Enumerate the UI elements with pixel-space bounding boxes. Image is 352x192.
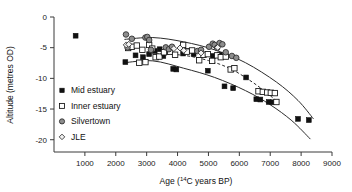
x-tick-label: 2000	[107, 159, 125, 168]
x-tick-label: 9000	[323, 159, 341, 168]
marker-silvertown	[123, 32, 129, 38]
chart-canvas: 0-5-10-15-20 100020003000400050006000700…	[0, 0, 352, 192]
marker-silvertown	[220, 42, 226, 48]
marker-inner-estuary	[60, 103, 65, 108]
marker-inner-estuary	[274, 99, 279, 104]
legend-item-silvertown[interactable]: Silvertown	[59, 116, 110, 126]
marker-silvertown	[233, 55, 239, 61]
x-tick-label: 5000	[200, 159, 218, 168]
legend-item-label: Silvertown	[71, 116, 110, 126]
marker-mid-estuary	[141, 55, 146, 60]
legend-item-label: Mid estuary	[71, 85, 116, 95]
x-axis-title-base: Age (	[160, 176, 180, 186]
lower-bound-curve	[124, 61, 310, 139]
y-axis-ticks: 0-5-10-15-20	[35, 13, 54, 145]
x-tick-label: 7000	[261, 159, 279, 168]
legend-item-mid-estuary[interactable]: Mid estuary	[60, 85, 116, 95]
legend-item-label: Inner estuary	[71, 101, 121, 111]
marker-inner-estuary	[189, 48, 194, 53]
marker-inner-estuary	[196, 58, 201, 63]
marker-silvertown	[223, 49, 229, 55]
marker-inner-estuary	[134, 43, 139, 48]
marker-mid-estuary	[296, 116, 301, 121]
marker-mid-estuary	[306, 118, 311, 123]
chart-legend: Mid estuaryInner estuarySilvertownJLE	[59, 85, 121, 142]
marker-mid-estuary	[133, 53, 138, 58]
marker-silvertown	[129, 36, 135, 42]
marker-mid-estuary	[60, 88, 64, 92]
x-axis-ticks: 100020003000400050006000700080009000	[76, 152, 341, 168]
x-tick-label: 8000	[292, 159, 310, 168]
y-tick-label: -10	[35, 74, 47, 83]
marker-mid-estuary	[244, 75, 249, 80]
scatter-chart-figure: 0-5-10-15-20 100020003000400050006000700…	[0, 0, 352, 192]
legend-item-inner-estuary[interactable]: Inner estuary	[60, 101, 122, 111]
x-axis-title-tail: C years BP)	[187, 176, 233, 186]
legend-item-jle[interactable]: JLE	[59, 132, 86, 142]
x-tick-label: 1000	[76, 159, 94, 168]
y-tick-label: -5	[40, 43, 48, 52]
marker-inner-estuary	[172, 52, 177, 57]
y-axis-title: Altitude (metres OD)	[5, 46, 15, 124]
marker-jle	[59, 134, 65, 140]
y-tick-label: -20	[35, 136, 47, 145]
marker-mid-estuary	[174, 67, 179, 72]
marker-mid-estuary	[222, 84, 227, 89]
marker-silvertown	[148, 47, 154, 53]
x-axis-title: Age (14C years BP)	[160, 176, 233, 186]
marker-inner-estuary	[143, 59, 148, 64]
marker-mid-estuary	[205, 68, 210, 73]
marker-inner-estuary	[209, 58, 214, 63]
legend-item-label: JLE	[71, 132, 86, 142]
marker-silvertown	[146, 37, 152, 43]
marker-inner-estuary	[272, 90, 277, 95]
marker-silvertown	[59, 119, 64, 124]
y-tick-label: -15	[35, 105, 47, 114]
marker-inner-estuary	[205, 51, 210, 56]
marker-mid-estuary	[258, 97, 263, 102]
marker-inner-estuary	[232, 66, 237, 71]
x-tick-label: 6000	[230, 159, 248, 168]
x-tick-label: 3000	[138, 159, 156, 168]
marker-mid-estuary	[73, 33, 78, 38]
marker-inner-estuary	[140, 47, 145, 52]
x-tick-label: 4000	[169, 159, 187, 168]
marker-mid-estuary	[231, 86, 236, 91]
marker-inner-estuary	[137, 60, 142, 65]
y-tick-label: 0	[43, 13, 48, 22]
marker-mid-estuary	[123, 60, 128, 65]
